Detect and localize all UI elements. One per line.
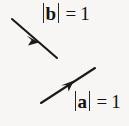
equals-sign-a: = — [97, 92, 108, 111]
equals-sign-b: = — [66, 4, 77, 23]
absolute-value-bar-left-b — [43, 3, 45, 23]
vector-symbol-a: a — [78, 92, 88, 111]
magnitude-label-b: b = 1 — [41, 3, 90, 23]
absolute-value-bar-right-b — [58, 3, 60, 23]
vector-symbol-b: b — [46, 4, 57, 23]
vector-b-arrow — [12, 19, 57, 58]
absolute-value-bar-left-a — [75, 91, 77, 111]
vector-b-shaft — [12, 19, 57, 58]
absolute-value-bar-right-a — [89, 91, 91, 111]
unit-vectors-diagram: b = 1 a = 1 — [0, 0, 129, 126]
magnitude-label-a: a = 1 — [73, 91, 121, 111]
magnitude-value-b: 1 — [80, 4, 90, 23]
magnitude-value-a: 1 — [111, 92, 121, 111]
